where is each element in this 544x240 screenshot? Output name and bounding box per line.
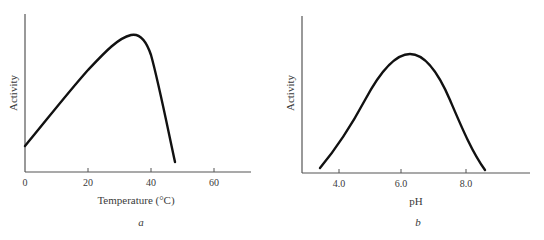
- x-tick-label: 0: [23, 177, 28, 188]
- temperature-activity-curve: [25, 35, 175, 162]
- x-tick-label: 20: [83, 177, 93, 188]
- x-tick-label: 40: [146, 177, 156, 188]
- y-axis-title: Activity: [284, 74, 296, 111]
- ph-activity-curve: [320, 54, 485, 170]
- y-axis-title: Activity: [7, 74, 19, 111]
- chart-temperature: 0 20 40 60 Temperature (°C) Activity a: [7, 14, 251, 228]
- x-axis-title: Temperature (°C): [97, 194, 175, 207]
- x-tick-label: 8.0: [460, 178, 473, 189]
- x-tick-label: 60: [209, 177, 219, 188]
- x-tick-label: 6.0: [395, 178, 408, 189]
- chart-ph: 4.0 6.0 8.0 pH Activity b: [284, 16, 530, 228]
- panel-label-a: a: [138, 216, 144, 228]
- panel-label-b: b: [415, 216, 421, 228]
- figure: 0 20 40 60 Temperature (°C) Activity a 4…: [0, 0, 544, 240]
- x-axis-title: pH: [409, 195, 423, 207]
- x-tick-label: 4.0: [333, 178, 346, 189]
